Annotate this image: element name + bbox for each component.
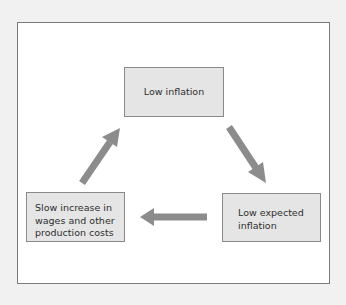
node-label-line: Low expected [238,207,320,220]
node-label-line: Slow increase in [35,202,124,215]
node-label-line: wages and other [35,215,124,228]
node-slow-wage-increase: Slow increase in wages and other product… [26,192,125,242]
node-low-expected-inflation: Low expected inflation [222,193,321,242]
node-low-inflation: Low inflation [124,67,224,117]
node-label-line: Low inflation [144,86,204,99]
diagram-frame [17,22,330,284]
node-label-line: inflation [238,220,320,233]
node-label-line: production costs [35,227,124,240]
